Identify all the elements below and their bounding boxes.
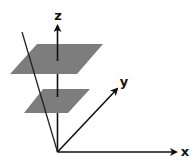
- upper-plane: [10, 44, 103, 74]
- x-axis-label: x: [181, 144, 190, 159]
- z-axis-label: z: [54, 8, 62, 23]
- diagram-canvas: z y x: [0, 0, 195, 163]
- y-axis-label: y: [120, 74, 129, 89]
